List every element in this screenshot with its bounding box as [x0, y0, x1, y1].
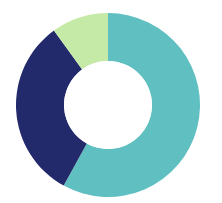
donut-hole — [64, 61, 152, 149]
donut-chart — [0, 0, 222, 203]
